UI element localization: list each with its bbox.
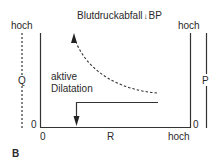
bottom-axis-high-label: hoch — [168, 131, 190, 142]
panel-label: B — [12, 148, 19, 159]
active-dilatation-arrow — [77, 103, 159, 119]
annotation-line-2: Dilatation — [51, 83, 93, 94]
title-suffix: BP — [149, 10, 162, 21]
right-axis-zero-label: 0 — [193, 119, 199, 130]
bottom-axis-zero-label: 0 — [40, 131, 46, 142]
left-axis-var-label: Q — [18, 75, 26, 86]
right-axis-top-label: hoch — [178, 20, 200, 31]
title-text: Blutdruckabfall — [77, 10, 143, 21]
left-axis-top-label: hoch — [11, 20, 33, 31]
dashed-arrowhead-icon — [71, 33, 77, 43]
right-axis-var-label: P — [202, 75, 209, 86]
bottom-axis-var-label: R — [107, 131, 114, 142]
left-axis-zero-label: 0 — [31, 119, 37, 130]
down-arrow-icon: ↓ — [144, 12, 148, 21]
annotation-line-1: aktive — [51, 71, 77, 82]
solid-arrowhead-icon — [74, 116, 80, 126]
diagram-title: Blutdruckabfall↓BP — [77, 10, 162, 22]
